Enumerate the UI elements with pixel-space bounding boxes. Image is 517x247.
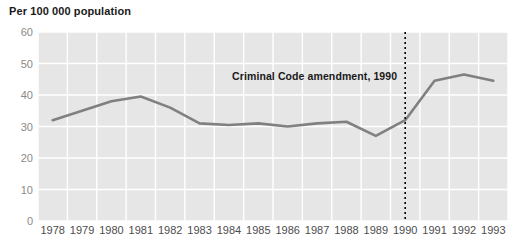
y-axis-tick-20: 20: [1, 152, 33, 164]
x-axis-tick-1987: 1987: [305, 224, 329, 236]
amendment-annotation-label: Criminal Code amendment, 1990: [232, 70, 397, 82]
y-axis-tick-60: 60: [1, 26, 33, 38]
plot-svg: [38, 32, 508, 221]
x-axis-tick-1992: 1992: [452, 224, 476, 236]
x-axis-tick-1985: 1985: [246, 224, 270, 236]
x-axis-tick-1993: 1993: [481, 224, 505, 236]
plot-area: [38, 32, 508, 221]
x-axis-tick-1978: 1978: [40, 224, 64, 236]
x-axis-tick-1991: 1991: [422, 224, 446, 236]
x-axis-tick-1981: 1981: [129, 224, 153, 236]
y-axis-tick-30: 30: [1, 121, 33, 133]
x-axis-tick-1989: 1989: [364, 224, 388, 236]
y-axis-tick-0: 0: [1, 215, 33, 227]
x-axis-tick-1986: 1986: [275, 224, 299, 236]
y-axis-tick-50: 50: [1, 58, 33, 70]
y-axis-title: Per 100 000 population: [9, 5, 131, 17]
x-axis-tick-1988: 1988: [334, 224, 358, 236]
x-axis-tick-1982: 1982: [158, 224, 182, 236]
x-axis-tick-labels: 1978197919801981198219831984198519861987…: [38, 224, 508, 244]
x-axis-tick-1980: 1980: [99, 224, 123, 236]
chart-figure: Per 100 000 population 6050403020100 Cri…: [0, 0, 517, 247]
x-axis-tick-1983: 1983: [187, 224, 211, 236]
y-axis-tick-40: 40: [1, 89, 33, 101]
x-axis-tick-1984: 1984: [217, 224, 241, 236]
x-axis-tick-1979: 1979: [70, 224, 94, 236]
y-axis-tick-labels: 6050403020100: [0, 32, 33, 221]
y-axis-tick-10: 10: [1, 184, 33, 196]
x-axis-tick-1990: 1990: [393, 224, 417, 236]
